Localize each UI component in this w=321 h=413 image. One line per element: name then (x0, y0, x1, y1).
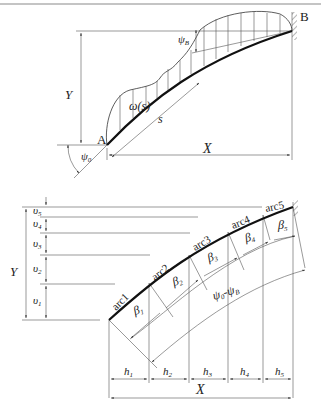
beta-arc (130, 236, 295, 339)
label-b: B (300, 9, 309, 24)
label-v5: υ5 (33, 204, 42, 218)
label-v1: υ1 (33, 294, 42, 308)
label-v3: υ3 (33, 237, 42, 251)
label-h5: h5 (275, 365, 285, 379)
level-lines (22, 207, 262, 320)
angle-psi0-arc (68, 145, 79, 173)
label-arc4: arc4 (229, 212, 252, 230)
label-y-bottom: Y (10, 264, 19, 279)
label-h4: h4 (240, 365, 250, 379)
diagram-canvas: A B Y X s ω(s) ψ0 ψB (0, 0, 321, 413)
beta-arrows (131, 236, 295, 338)
wall-hatch-bottom (293, 200, 298, 216)
label-load: ω(s) (129, 99, 150, 113)
label-h3: h3 (203, 365, 213, 379)
label-y-top: Y (65, 87, 74, 102)
label-a: A (97, 132, 107, 147)
label-psib: ψB (178, 33, 190, 47)
label-v4: υ4 (33, 217, 42, 231)
label-arc2: arc2 (149, 261, 171, 282)
label-h2: h2 (163, 365, 173, 379)
label-beta4: β4 (242, 229, 256, 246)
label-beta5: β5 (277, 218, 288, 233)
label-x-top: X (202, 141, 212, 156)
label-arc1: arc1 (109, 291, 131, 313)
label-s: s (158, 112, 163, 126)
wall-hatch (292, 12, 297, 40)
label-beta2: β2 (169, 272, 184, 290)
label-beta3: β3 (204, 248, 219, 266)
beam-curve (107, 31, 292, 145)
label-x-bottom: X (195, 382, 205, 397)
label-v2: υ2 (33, 262, 42, 276)
bottom-figure: Y X υ1 υ2 υ3 υ4 υ5 arc1 arc2 arc3 arc4 a… (10, 197, 305, 398)
label-beta1: β1 (130, 301, 145, 319)
label-h1: h1 (124, 365, 133, 379)
beam-normals (109, 207, 305, 368)
load-envelope (106, 11, 292, 145)
label-total-angle: ψ0-ψB (211, 281, 242, 304)
s-arrow (112, 83, 199, 157)
top-figure: A B Y X s ω(s) ψ0 ψB (57, 9, 309, 178)
label-psi0: ψ0 (81, 150, 92, 164)
